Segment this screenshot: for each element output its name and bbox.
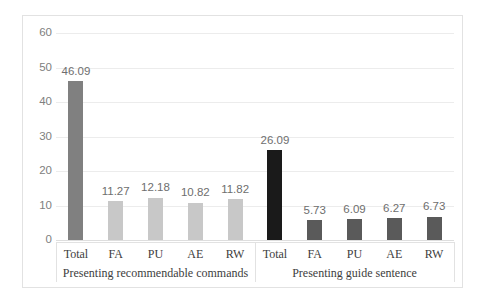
plot-area: 46.0911.2712.1810.8211.8226.095.736.096.… [56, 33, 454, 240]
category-label-pu-group1: PU [134, 248, 178, 260]
group-label-2: Presenting guide sentence [255, 267, 454, 279]
category-label-ae-group2: AE [372, 248, 416, 260]
bar-ae-group2 [387, 218, 402, 240]
bar-value-label-rw-group2: 6.73 [412, 201, 456, 213]
bar-value-label-fa-group2: 5.73 [293, 205, 337, 217]
group-band-rule-2 [255, 242, 454, 243]
bar-value-label-pu-group2: 6.09 [333, 204, 377, 216]
group-label-1: Presenting recommendable commands [56, 267, 255, 279]
category-label-total-group1: Total [54, 248, 98, 260]
category-label-pu-group2: PU [333, 248, 377, 260]
bar-chart-figure: 6050403020100 46.0911.2712.1810.8211.822… [0, 0, 486, 303]
bar-value-label-pu-group1: 12.18 [134, 182, 178, 194]
bar-rw-group2 [427, 217, 442, 240]
y-axis: 6050403020100 [22, 0, 52, 303]
bar-ae-group1 [188, 203, 203, 240]
bar-pu-group1 [148, 198, 163, 240]
y-tick-label-0: 0 [24, 234, 52, 246]
bar-value-label-fa-group1: 11.27 [94, 186, 138, 198]
bar-total-group2 [267, 150, 282, 240]
category-label-rw-group1: RW [213, 248, 257, 260]
bar-value-label-total-group1: 46.09 [54, 66, 98, 78]
y-tick-label-10: 10 [24, 200, 52, 212]
bar-value-label-ae-group1: 10.82 [173, 187, 217, 199]
category-label-ae-group1: AE [173, 248, 217, 260]
y-tick-label-60: 60 [24, 27, 52, 39]
group-band-rule-1 [56, 242, 255, 243]
bar-total-group1 [68, 81, 83, 240]
bar-value-label-total-group2: 26.09 [253, 135, 297, 147]
bar-value-label-rw-group1: 11.82 [213, 184, 257, 196]
group-separator-end [454, 242, 455, 282]
category-label-fa-group1: FA [94, 248, 138, 260]
y-tick-label-20: 20 [24, 165, 52, 177]
bar-value-label-ae-group2: 6.27 [372, 203, 416, 215]
y-tick-label-50: 50 [24, 62, 52, 74]
category-label-rw-group2: RW [412, 248, 456, 260]
y-tick-label-40: 40 [24, 96, 52, 108]
bar-fa-group1 [108, 201, 123, 240]
bar-pu-group2 [347, 219, 362, 240]
bar-fa-group2 [307, 220, 322, 240]
gridline-0 [56, 240, 454, 241]
bar-rw-group1 [228, 199, 243, 240]
category-axis: TotalFAPUAERWPresenting recommendable co… [56, 242, 454, 288]
y-tick-label-30: 30 [24, 131, 52, 143]
category-label-fa-group2: FA [293, 248, 337, 260]
category-label-total-group2: Total [253, 248, 297, 260]
